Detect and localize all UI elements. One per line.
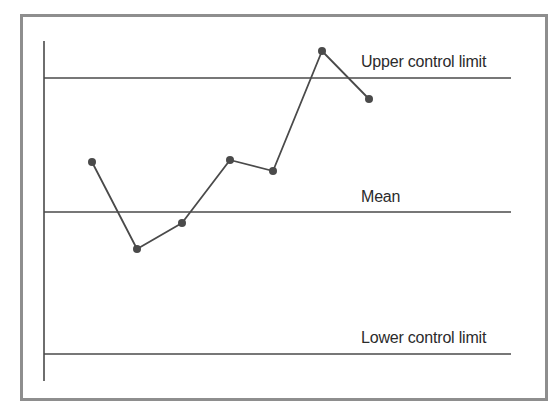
data-point: [88, 158, 96, 166]
data-point: [269, 167, 277, 175]
data-point: [318, 47, 326, 55]
control-chart: Upper control limit Mean Lower control l…: [0, 0, 558, 410]
data-point: [365, 95, 373, 103]
data-point: [133, 245, 141, 253]
lower-control-limit-label: Lower control limit: [361, 329, 487, 346]
data-point: [178, 219, 186, 227]
series-line: [92, 51, 369, 249]
upper-control-limit-label: Upper control limit: [361, 53, 487, 70]
mean-label: Mean: [361, 188, 400, 205]
data-point: [226, 156, 234, 164]
